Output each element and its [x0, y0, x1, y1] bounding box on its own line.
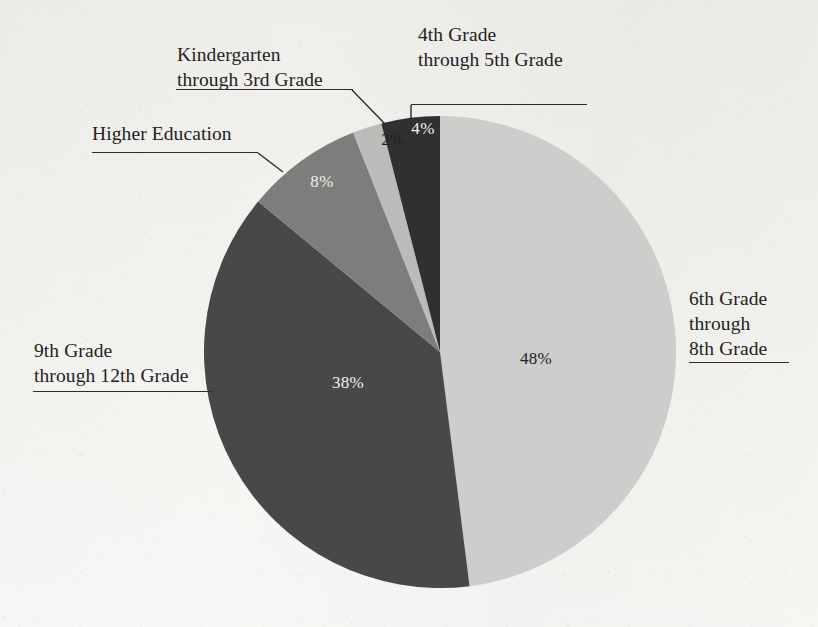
callout-6th-8th-line1: 6th Grade	[689, 286, 767, 311]
callout-kindergarten-3rd: Kindergarten through 3rd Grade	[177, 42, 323, 92]
callout-9th-12th-line1: 9th Grade	[34, 338, 189, 363]
pie-value-label-2: 2%	[381, 130, 404, 149]
callout-rule-6th-8th	[689, 362, 789, 363]
pie-value-label-4: 4%	[411, 119, 434, 138]
callout-6th-8th: 6th Grade through 8th Grade	[689, 286, 767, 361]
callout-9th-12th: 9th Grade through 12th Grade	[34, 338, 189, 388]
callout-6th-8th-line2: through	[689, 311, 767, 336]
callout-6th-8th-line3: 8th Grade	[689, 336, 767, 361]
callout-higher-education: Higher Education	[92, 121, 232, 146]
callout-kindergarten-3rd-line1: Kindergarten	[177, 42, 323, 67]
leader-line-kindergarten-3rd	[352, 90, 385, 124]
callout-rule-kindergarten-3rd	[176, 89, 353, 90]
callout-rule-9th-12th	[33, 391, 213, 392]
chart-page: 48% 38% 8% 2% 4% 4th Grade through 5th G…	[0, 0, 818, 627]
callout-rule-higher-education	[92, 152, 258, 153]
pie-slice-6th-8th[interactable]	[440, 116, 676, 586]
leader-line-higher-education	[258, 153, 283, 172]
pie-value-label-8: 8%	[310, 172, 333, 191]
pie-slices	[204, 116, 676, 588]
callout-4th-5th: 4th Grade through 5th Grade	[418, 22, 563, 72]
callout-4th-5th-line2: through 5th Grade	[418, 47, 563, 72]
callout-9th-12th-line2: through 12th Grade	[34, 363, 189, 388]
callout-4th-5th-line1: 4th Grade	[418, 22, 563, 47]
callout-higher-education-line1: Higher Education	[92, 121, 232, 146]
pie-value-label-38: 38%	[332, 373, 364, 392]
pie-value-label-48: 48%	[520, 349, 552, 368]
callout-rule-4th-5th	[411, 104, 587, 105]
